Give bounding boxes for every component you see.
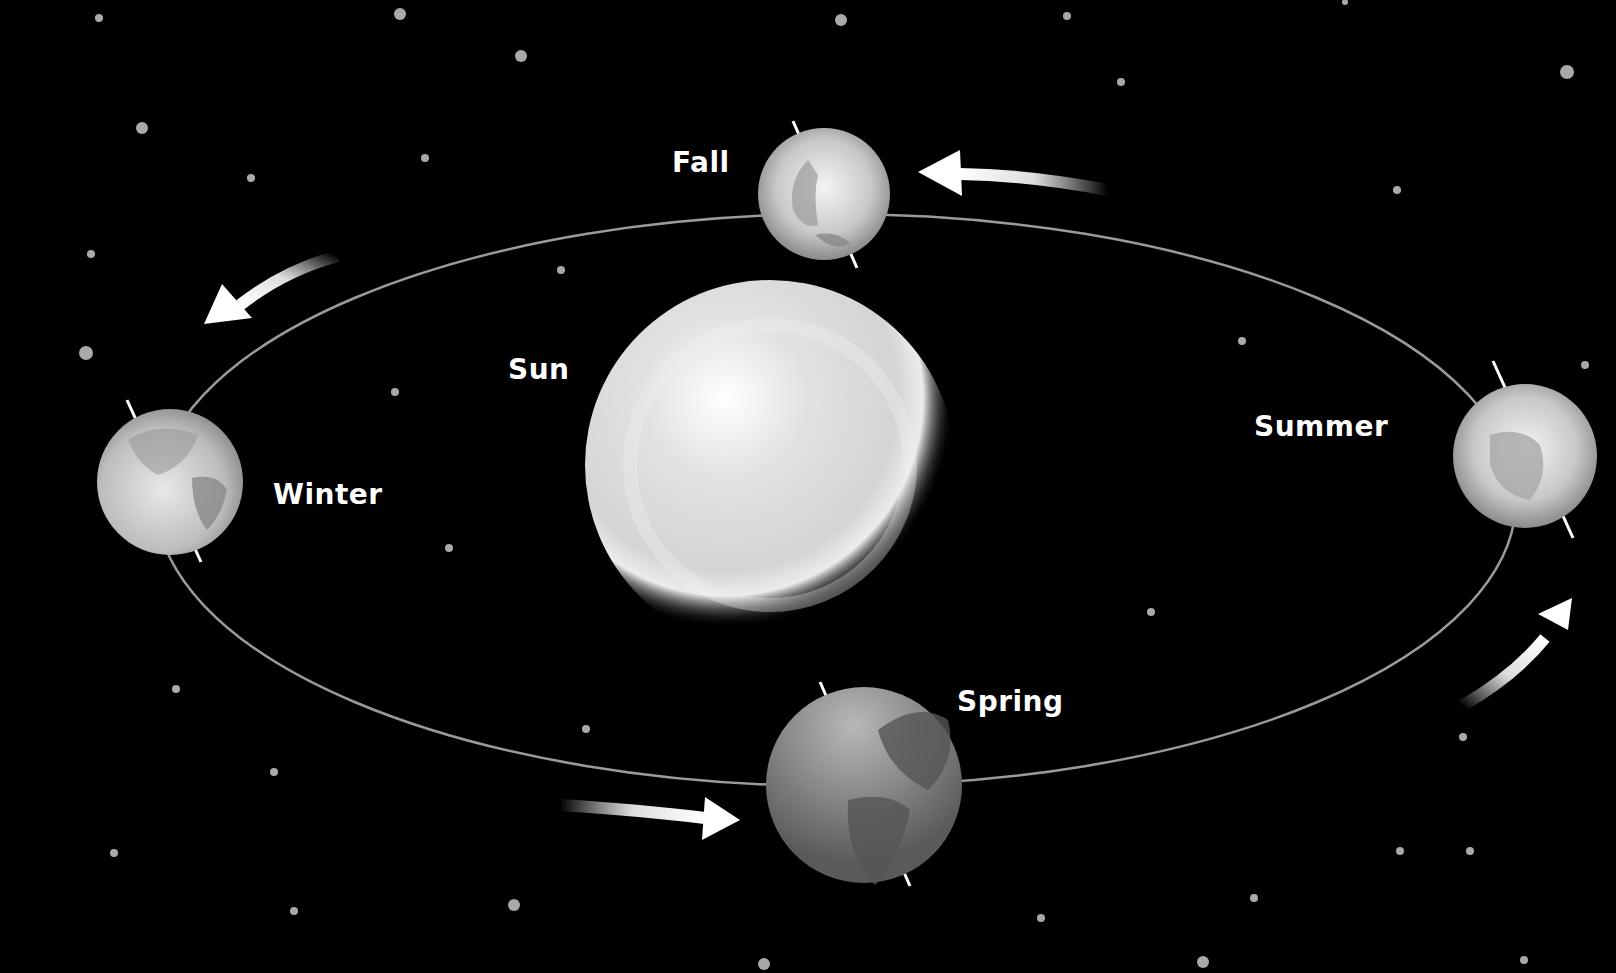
earth-winter xyxy=(97,400,243,562)
diagram-canvas xyxy=(0,0,1616,973)
earth-spring xyxy=(766,682,962,886)
arrow-bottom-icon xyxy=(560,797,740,840)
label-spring: Spring xyxy=(957,685,1064,718)
earth-orbit-seasons-diagram: Fall Sun Winter Summer Spring xyxy=(0,0,1616,973)
sun xyxy=(585,280,955,650)
label-winter: Winter xyxy=(273,478,383,511)
label-fall: Fall xyxy=(672,146,730,179)
earth-fall xyxy=(758,121,890,268)
label-sun: Sun xyxy=(508,353,570,386)
label-summer: Summer xyxy=(1254,410,1388,443)
earth-summer xyxy=(1453,361,1597,538)
arrow-top-icon xyxy=(918,150,1108,196)
arrow-right-icon xyxy=(1462,598,1572,706)
